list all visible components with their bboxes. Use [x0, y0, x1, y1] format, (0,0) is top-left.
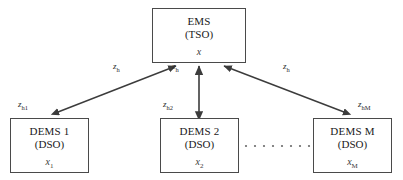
- node-dems-2[interactable]: DEMS 2 (DSO) x2: [160, 118, 239, 173]
- node-dems-m-subtitle: (DSO): [338, 138, 367, 151]
- node-dems-m-variable: xM: [347, 156, 358, 172]
- edge-label-zhm: zhM: [358, 99, 371, 113]
- node-dems-1[interactable]: DEMS 1 (DSO) x1: [10, 118, 89, 173]
- edge-label-zh1: zh1: [18, 99, 28, 113]
- edge-label-zh2-subscript: h2: [167, 104, 174, 111]
- edge-label-zh-right-subscript: h: [287, 66, 290, 73]
- node-dems-2-variable: x2: [196, 156, 204, 172]
- continuation-dots-icon: [245, 145, 310, 147]
- edge-label-zh1-subscript: h1: [22, 104, 29, 111]
- node-dems-1-variable-subscript: 1: [50, 162, 54, 170]
- node-ems-variable: x: [197, 46, 201, 62]
- edge-label-zh-mid-subscript: h: [176, 66, 179, 73]
- node-ems-title: EMS: [187, 15, 210, 28]
- node-dems-m[interactable]: DEMS M (DSO) xM: [313, 118, 392, 173]
- edge-label-zh2: zh2: [163, 99, 173, 113]
- edge-label-zh-right: zh: [283, 61, 290, 75]
- edge-label-zh-left: zh: [113, 61, 120, 75]
- node-dems-1-subtitle: (DSO): [35, 138, 64, 151]
- edge-label-zh-left-subscript: h: [117, 66, 120, 73]
- node-dems-2-subtitle: (DSO): [185, 138, 214, 151]
- node-ems-subtitle: (TSO): [185, 28, 213, 41]
- diagram-canvas: EMS (TSO) x DEMS 1 (DSO) x1 DEMS 2 (DSO)…: [0, 0, 403, 180]
- node-dems-2-variable-subscript: 2: [200, 162, 204, 170]
- node-dems-1-title: DEMS 1: [29, 125, 69, 138]
- node-ems[interactable]: EMS (TSO) x: [152, 8, 246, 63]
- edge-label-zh-mid: zh: [172, 61, 179, 75]
- node-dems-m-variable-subscript: M: [352, 162, 358, 170]
- node-dems-2-title: DEMS 2: [179, 125, 219, 138]
- node-dems-m-title: DEMS M: [330, 125, 374, 138]
- node-dems-1-variable: x1: [46, 156, 54, 172]
- node-ems-variable-base: x: [197, 46, 201, 57]
- edge-label-zhm-subscript: hM: [362, 104, 371, 111]
